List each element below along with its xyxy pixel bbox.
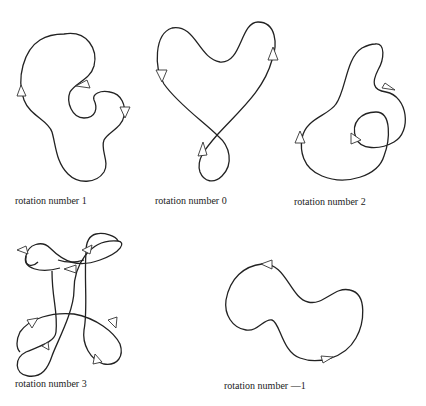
curve-rotation-neg1 <box>226 260 363 363</box>
direction-arrow-icon <box>382 83 395 90</box>
curve-rotation-2 <box>295 44 405 180</box>
figure-label: rotation number 0 <box>155 195 227 206</box>
direction-arrow-icon <box>321 356 333 363</box>
figure-label: rotation number 2 <box>294 196 366 207</box>
figure-label: rotation number 1 <box>15 195 87 206</box>
direction-arrow-icon <box>268 47 278 60</box>
curve-rotation-1 <box>17 33 130 181</box>
direction-arrow-icon <box>42 342 49 350</box>
direction-arrow-icon <box>17 246 28 254</box>
curve-rotation-0 <box>156 22 278 181</box>
direction-arrow-icon <box>351 133 361 144</box>
direction-arrow-icon <box>120 107 130 118</box>
direction-arrow-icon <box>156 70 167 82</box>
direction-arrow-icon <box>17 85 26 96</box>
direction-arrow-icon <box>261 260 272 269</box>
direction-arrow-icon <box>27 318 38 328</box>
direction-arrow-icon <box>108 317 117 328</box>
direction-arrow-icon <box>93 354 102 364</box>
direction-arrow-icon <box>64 265 76 273</box>
figure-label: rotation number —1 <box>224 380 306 391</box>
figure-label: rotation number 3 <box>15 378 87 389</box>
curve-rotation-3 <box>17 233 122 376</box>
